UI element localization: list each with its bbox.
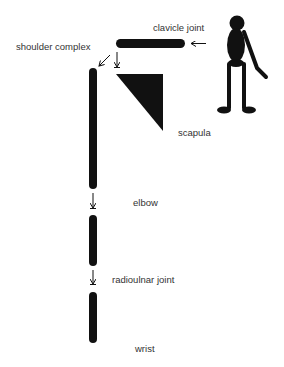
label-elbow: elbow	[133, 197, 158, 208]
forearm-proximal-segment	[89, 215, 97, 266]
stick-figure-icon	[217, 16, 266, 114]
upper-arm-segment	[89, 68, 97, 189]
label-wrist: wrist	[134, 343, 155, 354]
figure-left-foot	[217, 107, 231, 114]
limb-chain-diagram: clavicle joint shoulder complex scapula …	[0, 0, 284, 367]
label-shoulder-complex: shoulder complex	[16, 41, 91, 52]
scapula-segment	[116, 74, 163, 131]
figure-right-foot	[242, 107, 256, 114]
clavicle-segment	[116, 39, 185, 48]
figure-arm	[244, 32, 266, 77]
label-clavicle-joint: clavicle joint	[153, 22, 205, 33]
label-radioulnar-joint: radioulnar joint	[112, 274, 175, 285]
label-scapula: scapula	[178, 127, 211, 138]
shoulder-diagonal-arrow-icon	[99, 55, 110, 66]
forearm-distal-segment	[89, 292, 97, 343]
